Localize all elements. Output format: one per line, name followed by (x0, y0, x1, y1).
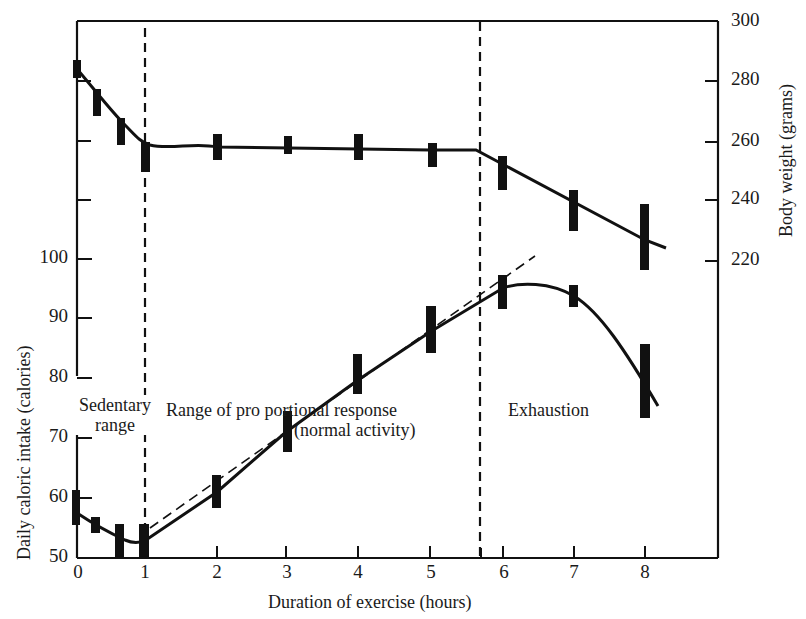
region-label-proportional: Range of pro portional response (normal … (166, 400, 466, 440)
x-tick-6: 6 (499, 561, 509, 583)
x-axis-title: Duration of exercise (hours) (268, 592, 471, 613)
x-tick-1: 1 (140, 561, 150, 583)
region-label-proportional-line1: Range of pro portional response (166, 400, 466, 420)
y-left-axis-title: Daily caloric intake (calories) (14, 346, 35, 560)
region-label-sedentary: Sedentary range (70, 395, 160, 435)
y-right-ticks (705, 81, 718, 261)
region-label-exhaustion: Exhaustion (508, 400, 589, 420)
x-tick-8: 8 (640, 561, 650, 583)
y-right-tick-300: 300 (731, 9, 760, 31)
y-left-tick-90: 90 (28, 305, 68, 327)
x-tick-7: 7 (569, 561, 579, 583)
y-right-tick-260: 260 (731, 129, 760, 151)
body-weight-error-bars (73, 60, 649, 270)
region-label-sedentary-line2: range (70, 415, 160, 435)
y-right-tick-280: 280 (731, 68, 760, 90)
region-label-proportional-line2: (normal activity) (166, 420, 466, 440)
x-ticks (144, 546, 645, 558)
y-left-tick-100: 100 (28, 246, 68, 268)
region-dividers (145, 22, 480, 558)
y-right-tick-240: 240 (731, 187, 760, 209)
x-tick-0: 0 (73, 561, 83, 583)
x-tick-4: 4 (353, 561, 363, 583)
y-left-ticks (77, 81, 92, 498)
x-tick-3: 3 (282, 561, 292, 583)
y-right-tick-220: 220 (731, 248, 760, 270)
region-label-sedentary-line1: Sedentary (70, 395, 160, 415)
y-right-axis-title: Body weight (grams) (776, 84, 797, 237)
x-tick-5: 5 (426, 561, 436, 583)
dual-axis-line-chart (0, 0, 806, 619)
plot-frame (77, 21, 718, 558)
x-tick-2: 2 (212, 561, 222, 583)
